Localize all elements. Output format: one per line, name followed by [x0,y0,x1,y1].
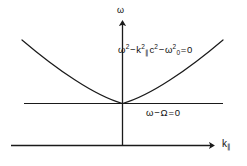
eq-omega: ω [118,44,126,55]
res-omega: ω [146,107,154,118]
k-parallel-axis-label-subscript: ∥ [227,143,232,150]
eq-equals: = [181,44,187,55]
eq-minus-1: − [130,44,136,55]
eq-c-exponent: 2 [154,43,158,50]
dispersion-figure: ω k∥ ω2−k2∥c2−ω20=0 ω−Ω=0 [0,0,247,166]
eq-omega-zero: ω [165,44,173,55]
resonance-equation-label: ω−Ω=0 [146,108,181,118]
figure-canvas [0,0,247,166]
dispersion-equation-label: ω2−k2∥c2−ω20=0 [118,44,192,57]
k-parallel-axis-label: k∥ [222,139,232,150]
eq-minus-2: − [159,44,165,55]
eq-omega-exponent: 2 [126,43,130,50]
eq-zero: 0 [187,44,192,55]
res-zero: 0 [175,107,181,118]
eq-omega-zero-subscript: 0 [176,49,180,56]
omega-axis-label: ω [117,6,124,15]
